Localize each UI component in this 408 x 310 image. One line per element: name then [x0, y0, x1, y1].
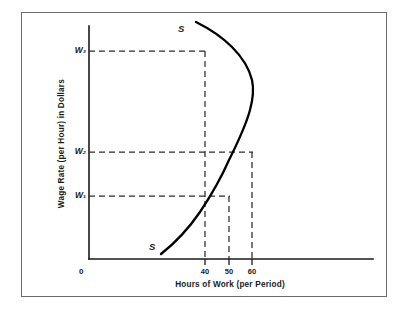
x-axis-title: Hours of Work (per Period) [120, 281, 340, 289]
y-axis-title: Wage Rate (per Hour) in Dollars [58, 79, 66, 208]
y-tick-label-w3: W₃ [72, 46, 86, 55]
x-tick-label-60: 60 [241, 268, 263, 276]
x-tick-label-40: 40 [194, 268, 216, 276]
figure-canvas: S S W₃ W₂ W₁ 40 50 60 0 Hours of Work (p… [0, 0, 408, 310]
y-tick-label-w2: W₂ [72, 147, 86, 156]
curve-label-s-top: S [178, 24, 184, 34]
y-tick-label-w1: W₁ [72, 191, 86, 200]
curve-label-s-bottom: S [149, 242, 155, 252]
supply-curve-s [161, 22, 253, 254]
origin-label: 0 [79, 268, 83, 276]
x-tick-label-50: 50 [218, 268, 240, 276]
